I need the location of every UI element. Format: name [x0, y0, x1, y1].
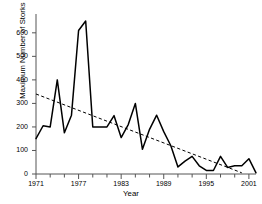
- y-tick-label: 100: [6, 146, 28, 153]
- y-tick-label: 0: [6, 170, 28, 177]
- x-tick-label: 1971: [21, 180, 51, 187]
- x-tick-label: 2001: [234, 180, 262, 187]
- x-tick-label: 1995: [191, 180, 221, 187]
- x-tick-label: 1983: [106, 180, 136, 187]
- y-tick-label: 300: [6, 99, 28, 106]
- x-axis-title: Year: [0, 189, 262, 198]
- y-tick-label: 400: [6, 76, 28, 83]
- y-tick-label: 600: [6, 29, 28, 36]
- x-minor-tick-marks: [50, 174, 235, 178]
- axes: [32, 14, 256, 179]
- y-tick-marks: [32, 33, 36, 174]
- data-line-storks: [36, 21, 256, 173]
- stork-population-chart: Maximum Number of Storks Year 0100200300…: [0, 0, 262, 204]
- y-tick-label: 200: [6, 123, 28, 130]
- x-tick-label: 1977: [64, 180, 94, 187]
- trend-line: [36, 94, 242, 173]
- y-tick-label: 500: [6, 52, 28, 59]
- chart-plot-area: [0, 0, 262, 204]
- x-tick-marks: [36, 174, 249, 179]
- x-tick-label: 1989: [149, 180, 179, 187]
